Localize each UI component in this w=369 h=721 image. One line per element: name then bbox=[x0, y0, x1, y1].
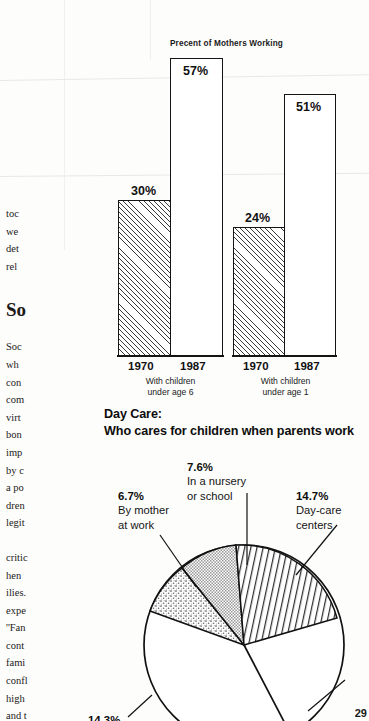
pie-label-by-mother-at-work: 6.7% By mother at work bbox=[118, 489, 169, 532]
bar-value-1987-under6: 57% bbox=[183, 64, 208, 78]
bar-group-caption-under6: With children under age 6 bbox=[113, 376, 228, 398]
bar-value-1987-under1: 51% bbox=[296, 100, 321, 114]
day-care-heading-line1: Day Care: bbox=[104, 406, 369, 423]
pie-label-line1: By mother bbox=[118, 503, 169, 518]
body-line: virt bbox=[6, 409, 58, 427]
pie-label-nursery-or-school: 7.6% In a nursery or school bbox=[187, 460, 246, 503]
bar-axis-group2 bbox=[232, 355, 337, 357]
pie-label-line2: at work bbox=[118, 518, 169, 533]
bar-year-label: 1987 bbox=[180, 360, 206, 372]
mothers-working-bar-chart: Precent of Mothers Working 30% 57% 1970 … bbox=[0, 0, 369, 400]
bar-axis-group1 bbox=[117, 355, 224, 357]
pie-label-pct: 14.3% bbox=[88, 713, 134, 721]
caption-line: under age 6 bbox=[148, 387, 194, 397]
pie-label-day-care-centers: 14.7% Day-care centers bbox=[296, 489, 341, 532]
day-care-heading-line2: Who cares for children when parents work bbox=[104, 423, 369, 440]
pie-label-pct: 7.6% bbox=[187, 460, 246, 474]
pie-label-line1: In a nursery bbox=[187, 474, 246, 489]
bar-year-label: 1970 bbox=[243, 360, 269, 372]
body-line: bon bbox=[6, 426, 58, 444]
leader-line-day-care bbox=[296, 525, 337, 575]
pie-label-cut-left: 14.3% bbox=[88, 713, 134, 721]
pie-label-line2: centers bbox=[296, 518, 341, 533]
pie-label-line2: or school bbox=[187, 489, 246, 504]
bar-1987-under6 bbox=[170, 58, 223, 356]
caption-line: under age 1 bbox=[263, 387, 309, 397]
bar-value-1970-under6: 30% bbox=[131, 184, 156, 198]
bar-1970-under6 bbox=[118, 200, 171, 356]
pie-label-line1: Day-care bbox=[296, 503, 341, 518]
bar-year-label: 1987 bbox=[294, 360, 320, 372]
scanned-page: toc we det rel So Soc wh con com virt bo… bbox=[0, 0, 369, 721]
pie-label-pct: 14.7% bbox=[296, 489, 341, 503]
bar-chart-title: Precent of Mothers Working bbox=[170, 39, 283, 48]
bar-year-label: 1970 bbox=[128, 360, 154, 372]
bar-1970-under1 bbox=[233, 227, 285, 356]
pie-label-cut-right: 29 bbox=[355, 707, 367, 719]
caption-line: With children bbox=[261, 376, 311, 386]
bar-value-1970-under1: 24% bbox=[245, 211, 270, 225]
day-care-heading: Day Care: Who cares for children when pa… bbox=[104, 406, 369, 439]
bar-group-caption-under1: With children under age 1 bbox=[228, 376, 343, 398]
day-care-pie-chart: 6.7% By mother at work 7.6% In a nursery… bbox=[0, 455, 369, 721]
caption-line: With children bbox=[146, 376, 196, 386]
bar-1987-under1 bbox=[284, 94, 336, 356]
pie-label-pct: 6.7% bbox=[118, 489, 169, 503]
